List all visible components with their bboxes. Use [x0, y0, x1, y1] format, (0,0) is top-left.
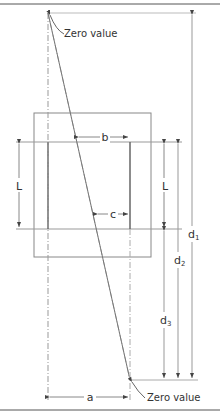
slanted-line [48, 13, 130, 380]
label-a: a [87, 391, 94, 404]
outer-box [34, 113, 151, 257]
label-zero-value-bottom: Zero value [147, 392, 201, 403]
label-L-right: L [162, 180, 169, 193]
label-c: c [110, 208, 116, 221]
label-zero-value-top: Zero value [64, 28, 118, 39]
dimension-diagram: L L d1 d2 d3 b c a Zero value Zero value [0, 0, 220, 417]
label-b: b [102, 131, 109, 144]
zero-value-bottom-leader [132, 382, 145, 398]
label-L-left: L [16, 180, 23, 193]
